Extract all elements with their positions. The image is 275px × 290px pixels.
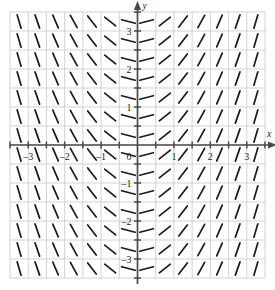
slope-segment bbox=[159, 264, 170, 273]
slope-segment bbox=[235, 53, 240, 66]
slope-segment bbox=[159, 245, 170, 254]
slope-segment bbox=[140, 96, 154, 100]
slope-segment bbox=[235, 91, 240, 104]
slope-segment bbox=[122, 39, 136, 43]
slope-segment bbox=[159, 150, 170, 159]
slope-segment bbox=[235, 148, 240, 161]
slope-segment bbox=[105, 188, 116, 197]
slope-segment bbox=[198, 91, 205, 103]
y-tick-label: 1 bbox=[127, 102, 132, 113]
slope-segment bbox=[105, 74, 116, 83]
slope-segment bbox=[140, 229, 154, 233]
slope-segment bbox=[122, 58, 136, 62]
y-axis-name-label: y bbox=[142, 0, 148, 11]
slope-segment bbox=[254, 72, 258, 85]
slope-field-plot: –3–2–1123321–1–2–30 xy bbox=[0, 0, 275, 290]
slope-segment bbox=[254, 167, 258, 180]
slope-segment bbox=[17, 167, 21, 180]
slope-segment bbox=[70, 53, 77, 65]
slope-field-figure: –3–2–1123321–1–2–30 xy bbox=[0, 0, 275, 290]
slope-segment bbox=[35, 110, 40, 123]
slope-segment bbox=[217, 262, 222, 275]
slope-segment bbox=[179, 73, 188, 84]
slope-segment bbox=[122, 115, 136, 119]
axis-name-labels: xy bbox=[142, 0, 273, 139]
slope-segment bbox=[88, 73, 97, 84]
slope-segment bbox=[88, 130, 97, 141]
slope-segment bbox=[17, 129, 21, 142]
slope-segment bbox=[70, 148, 77, 160]
slope-segment bbox=[140, 77, 154, 81]
x-axis-arrowhead bbox=[268, 141, 275, 148]
slope-segment bbox=[53, 129, 58, 142]
slope-segment bbox=[53, 243, 58, 256]
slope-segment bbox=[140, 267, 154, 271]
y-axis-arrowhead bbox=[134, 1, 141, 10]
slope-segment bbox=[35, 243, 40, 256]
slope-segment bbox=[179, 35, 188, 46]
slope-segment bbox=[17, 72, 21, 85]
slope-segment bbox=[105, 169, 116, 178]
slope-segment bbox=[140, 172, 154, 176]
slope-segment bbox=[53, 148, 58, 161]
slope-segment bbox=[53, 262, 58, 275]
slope-segment bbox=[179, 149, 188, 160]
slope-segment bbox=[217, 148, 222, 161]
y-tick-label: –1 bbox=[121, 178, 132, 189]
slope-segment bbox=[88, 92, 97, 103]
slope-segment bbox=[88, 263, 97, 274]
slope-segment bbox=[198, 243, 205, 255]
y-tick-label: –2 bbox=[121, 216, 132, 227]
slope-segment bbox=[53, 15, 58, 28]
slope-segment bbox=[217, 224, 222, 237]
slope-segment bbox=[235, 34, 240, 47]
slope-segment bbox=[105, 55, 116, 64]
slope-segment bbox=[235, 205, 240, 218]
slope-segment bbox=[254, 129, 258, 142]
slope-segment bbox=[159, 131, 170, 140]
slope-segment bbox=[254, 34, 258, 47]
slope-segment bbox=[198, 167, 205, 179]
slope-segment bbox=[235, 186, 240, 199]
slope-segment bbox=[88, 111, 97, 122]
slope-segment bbox=[159, 112, 170, 121]
slope-segment bbox=[217, 186, 222, 199]
slope-segment bbox=[70, 34, 77, 46]
slope-segment bbox=[88, 16, 97, 27]
slope-segment bbox=[159, 188, 170, 197]
slope-segment bbox=[17, 262, 21, 275]
slope-segment bbox=[198, 15, 205, 27]
slope-segment bbox=[35, 186, 40, 199]
slope-segment bbox=[105, 36, 116, 45]
slope-segment bbox=[53, 72, 58, 85]
slope-segment bbox=[70, 129, 77, 141]
slope-segment bbox=[198, 148, 205, 160]
slope-segment bbox=[254, 205, 258, 218]
slope-segment bbox=[122, 267, 136, 271]
x-tick-label: 3 bbox=[244, 151, 249, 162]
slope-segment bbox=[198, 53, 205, 65]
slope-segment bbox=[35, 34, 40, 47]
slope-segment bbox=[140, 191, 154, 195]
slope-segment bbox=[198, 262, 205, 274]
slope-segment bbox=[70, 262, 77, 274]
slope-segment bbox=[70, 167, 77, 179]
x-axis-name-label: x bbox=[266, 128, 272, 139]
slope-segment bbox=[140, 153, 154, 157]
slope-segment bbox=[105, 226, 116, 235]
slope-segment bbox=[159, 207, 170, 216]
slope-segment bbox=[217, 205, 222, 218]
slope-segment bbox=[88, 244, 97, 255]
slope-segment bbox=[53, 224, 58, 237]
slope-segment bbox=[217, 53, 222, 66]
slope-segment bbox=[140, 39, 154, 43]
x-tick-label: –3 bbox=[22, 151, 33, 162]
slope-segment bbox=[235, 243, 240, 256]
slope-segment bbox=[198, 34, 205, 46]
slope-segment bbox=[179, 54, 188, 65]
x-tick-label: 2 bbox=[208, 151, 213, 162]
slope-segment bbox=[235, 129, 240, 142]
slope-segment bbox=[198, 186, 205, 198]
slope-segment bbox=[17, 148, 21, 161]
slope-segment bbox=[235, 110, 240, 123]
